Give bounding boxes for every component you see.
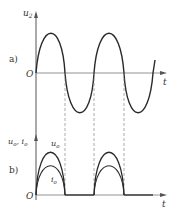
panel-b-label: b) [9, 165, 18, 175]
io-lobe-2 [94, 166, 124, 195]
uo-curve-label: uo [51, 139, 60, 149]
half-wave-rectifier-waveforms: u2 a) O t uo, io uo io b) O t [0, 0, 178, 213]
panel-a: u2 a) O t [9, 8, 167, 200]
panel-a-x-arrow-icon [160, 71, 167, 75]
io-curve-label: io [51, 175, 58, 185]
panel-b-y-label: uo, io [8, 137, 28, 147]
panel-b-y-arrow-icon [34, 134, 38, 141]
panel-b: uo, io uo io b) O t [8, 134, 167, 209]
panel-a-y-arrow-icon [34, 11, 38, 18]
panel-b-x-label: t [162, 199, 166, 209]
panel-b-origin-label: O [26, 191, 34, 201]
panel-a-label: a) [9, 54, 18, 64]
panel-a-y-label: u2 [23, 8, 33, 19]
panel-b-x-arrow-icon [160, 193, 167, 197]
panel-a-x-label: t [163, 77, 167, 87]
panel-a-origin-label: O [26, 69, 34, 79]
dashed-guides [65, 73, 124, 195]
